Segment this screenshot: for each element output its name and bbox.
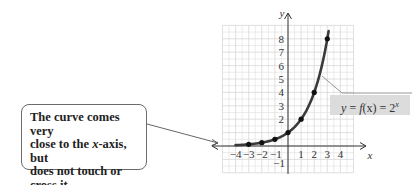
data-point — [325, 36, 330, 41]
x-tick-label: −2 — [256, 148, 268, 160]
eq-equals-2: = 2 — [377, 101, 396, 115]
y-tick-label: 7 — [279, 46, 285, 58]
function-label-box: y = f(x) = 2x — [330, 95, 410, 115]
x-tick-label: −3 — [243, 148, 255, 160]
callout-line-4: cross it. — [30, 178, 71, 186]
x-tick-label: 1 — [298, 148, 304, 160]
callout-line-3: does not touch or — [30, 164, 122, 178]
y-tick-label: 3 — [279, 100, 285, 112]
data-point — [246, 142, 251, 147]
x-tick-label: 2 — [311, 148, 317, 160]
y-tick-label: 4 — [279, 86, 285, 98]
y-axis-label: y — [279, 7, 285, 19]
callout-line-1: The curve comes very — [30, 110, 120, 138]
data-point — [299, 117, 304, 122]
y-tick-label: 8 — [279, 33, 285, 45]
y-tick-label: 5 — [279, 73, 285, 85]
x-tick-label: −4 — [230, 148, 242, 160]
callout-line-2-pre: close to the — [30, 137, 92, 151]
eq-paren: (x) — [363, 101, 377, 115]
callout-pointer-line — [147, 124, 218, 143]
y-tick-label: 6 — [279, 60, 285, 72]
x-axis-label: x — [367, 149, 373, 161]
annotation-callout: The curve comes very close to the x-axis… — [21, 104, 147, 170]
data-point — [285, 130, 290, 135]
equation-leader-line — [322, 76, 412, 93]
data-point — [272, 137, 277, 142]
x-tick-label: 3 — [325, 148, 331, 160]
eq-exponent: x — [395, 100, 399, 109]
data-point — [312, 90, 317, 95]
y-tick-label: 2 — [279, 113, 285, 125]
data-point — [259, 140, 264, 145]
eq-equals-1: = — [346, 101, 359, 115]
y-tick-label: −1 — [273, 157, 285, 169]
x-tick-label: 4 — [338, 148, 344, 160]
